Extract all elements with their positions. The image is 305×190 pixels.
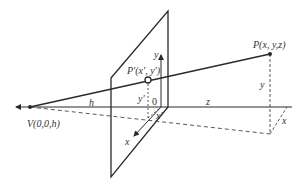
label-origin: 0 xyxy=(152,96,157,107)
label-y-prime: y' xyxy=(137,93,145,104)
label-x-prime: x' xyxy=(155,110,163,121)
perspective-projection-diagram: V(0,0,h) P(x, y,z) P'(x', y') h z y x 0 … xyxy=(0,0,305,190)
label-h: h xyxy=(89,97,94,108)
viewpoint-dot xyxy=(28,105,32,109)
point-p-dot xyxy=(268,52,272,56)
label-y-point: y xyxy=(259,79,265,90)
label-z: z xyxy=(205,96,210,107)
label-projected-point: P'(x', y') xyxy=(126,65,161,77)
label-viewpoint: V(0,0,h) xyxy=(27,118,60,130)
point-p-prime-circle xyxy=(145,77,151,83)
label-x-point: x xyxy=(281,115,287,126)
label-point: P(x, y,z) xyxy=(252,39,286,51)
label-y-axis: y xyxy=(153,49,159,60)
label-x-axis: x xyxy=(124,136,130,147)
diagram-canvas: V(0,0,h) P(x, y,z) P'(x', y') h z y x 0 … xyxy=(0,0,305,190)
